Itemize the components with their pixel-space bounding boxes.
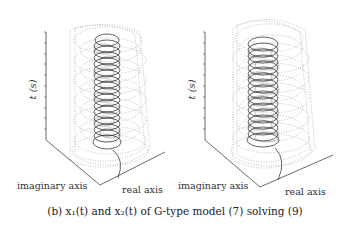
caption-prefix: (b) (47, 205, 62, 217)
x-axis-label: real axis (285, 186, 326, 197)
y-axis-label: imaginary axis (178, 180, 248, 191)
x-axis-label: real axis (122, 184, 163, 195)
plot-x2-canvas (175, 0, 350, 200)
figure-caption: (b) x₁(t) and x₂(t) of G-type model (7) … (0, 205, 350, 217)
z-axis-label: t (s) (186, 79, 197, 99)
z-axis-label: t (s) (27, 79, 38, 99)
plot-x1-canvas (0, 0, 175, 200)
plot-x2: t (s) imaginary axis real axis (175, 0, 350, 200)
y-axis-label: imaginary axis (17, 180, 87, 191)
caption-text: x₁(t) and x₂(t) of G-type model (7) solv… (66, 205, 303, 217)
plot-x1: t (s) imaginary axis real axis (0, 0, 175, 200)
